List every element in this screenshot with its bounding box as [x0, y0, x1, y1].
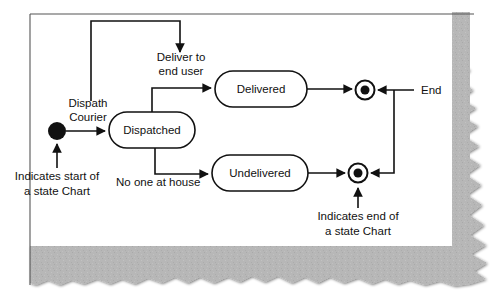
label-dispath-courier-line1: Dispath — [69, 97, 108, 109]
state-undelivered[interactable]: Undelivered — [212, 155, 308, 191]
state-undelivered-label: Undelivered — [229, 167, 290, 179]
state-chart-diagram: Dispatched Delivered Undelivered — [0, 0, 502, 301]
label-no-one-at-house: No one at house — [116, 176, 200, 188]
label-dispath-courier-line2: Courier — [69, 111, 107, 123]
final-state-top-inner-icon — [361, 86, 370, 95]
annotation-start-note-line2: a state Chart — [24, 185, 91, 197]
state-dispatched[interactable]: Dispatched — [109, 112, 195, 148]
annotation-end-note-line2: a state Chart — [325, 225, 392, 237]
page-canvas: Dispatched Delivered Undelivered — [0, 0, 502, 301]
final-state-bottom-inner-icon — [354, 169, 363, 178]
annotation-start-note-line1: Indicates start of — [15, 170, 100, 182]
label-deliver-line2: end user — [159, 65, 204, 77]
paper-sheet — [30, 14, 474, 285]
final-state-top-node[interactable] — [356, 81, 375, 100]
final-state-bottom-node[interactable] — [349, 164, 368, 183]
state-dispatched-label: Dispatched — [123, 124, 181, 136]
torn-paper-right-strip — [452, 12, 470, 284]
label-deliver-line1: Deliver to — [157, 51, 206, 63]
label-end: End — [421, 84, 441, 96]
state-delivered[interactable]: Delivered — [215, 71, 307, 107]
initial-state-icon — [48, 122, 66, 140]
state-delivered-label: Delivered — [237, 83, 286, 95]
initial-state-node[interactable] — [48, 122, 66, 140]
annotation-end-note-line1: Indicates end of — [317, 210, 399, 222]
